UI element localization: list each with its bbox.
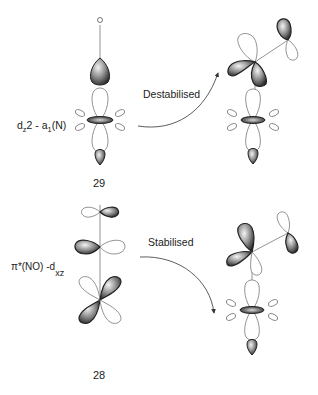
oxygen-atom-marker bbox=[98, 18, 103, 23]
o-p-lobe-empty bbox=[286, 40, 298, 60]
o-p-lobe-empty bbox=[277, 212, 289, 233]
orbital-label-pi-star-dxz: π*(NO) -dxz bbox=[11, 262, 64, 272]
dz2-torus bbox=[87, 117, 113, 124]
trans-ligand-lobe bbox=[248, 149, 258, 165]
n-pi-lobe-empty bbox=[100, 240, 125, 254]
dxz-lobe-upper-left-empty bbox=[79, 277, 100, 300]
dz2-upper-lobe bbox=[246, 89, 261, 120]
destabilised-arrow bbox=[138, 73, 218, 127]
destabilised-label: Destabilised bbox=[143, 89, 200, 100]
compound-number-29: 29 bbox=[93, 177, 105, 189]
n-p-lobe-filled-lower bbox=[252, 62, 267, 86]
side-lobe bbox=[267, 312, 278, 321]
dz2-upper-lobe bbox=[92, 88, 108, 120]
side-lobe bbox=[225, 312, 236, 321]
mo-diagram-canvas bbox=[0, 0, 318, 395]
dz2-lower-lobe bbox=[246, 120, 261, 151]
side-lobe bbox=[226, 108, 237, 117]
trans-ligand-lobe bbox=[95, 150, 105, 166]
label-part: d bbox=[17, 119, 23, 131]
side-lobe bbox=[268, 122, 279, 131]
n-p-lobe-empty bbox=[238, 34, 257, 63]
label-subscript: 1 bbox=[48, 125, 52, 134]
dxz-lobe-upper-right-filled bbox=[100, 277, 121, 300]
dxz-lobe-lower-left-filled bbox=[79, 300, 100, 323]
n-p-lobe-filled-upper bbox=[238, 224, 254, 253]
label-subscript: xz bbox=[55, 268, 64, 278]
structure-29-linear bbox=[74, 25, 125, 165]
label-part: 2 - a bbox=[27, 119, 48, 131]
structure-29-bent bbox=[226, 19, 298, 164]
orbital-label-dz2-a1: dz2 - a1(N) bbox=[17, 120, 66, 131]
stabilised-label: Stabilised bbox=[148, 237, 194, 248]
n-pi-lobe-filled bbox=[75, 240, 100, 254]
side-lobe bbox=[74, 108, 85, 117]
side-lobe bbox=[114, 108, 125, 117]
label-part: (N) bbox=[52, 119, 67, 131]
side-lobe bbox=[268, 108, 279, 117]
structure-28-bent bbox=[225, 212, 298, 355]
dz2-lower-lobe bbox=[245, 310, 260, 340]
label-part: π*(NO) -d bbox=[11, 261, 55, 272]
trans-ligand-lobe bbox=[247, 340, 257, 356]
side-lobe bbox=[114, 122, 125, 131]
dz2-torus bbox=[240, 307, 264, 314]
side-lobe bbox=[226, 122, 237, 131]
stabilised-arrow bbox=[140, 257, 214, 313]
dz2-upper-lobe bbox=[245, 280, 260, 310]
side-lobe bbox=[225, 298, 236, 307]
o-p-lobe-filled bbox=[277, 19, 291, 40]
side-lobe bbox=[74, 122, 85, 131]
dz2-lower-lobe bbox=[92, 120, 108, 152]
structure-28-linear bbox=[75, 205, 125, 323]
side-lobe bbox=[267, 298, 278, 307]
o-p-lobe-filled bbox=[286, 233, 298, 253]
dxz-lobe-lower-right-empty bbox=[100, 300, 121, 323]
bent-n-o-bond bbox=[252, 233, 288, 252]
label-subscript: z bbox=[23, 125, 27, 134]
bent-n-o-bond bbox=[255, 40, 288, 62]
n-p-lobe-filled-lower bbox=[227, 252, 252, 266]
o-pi-lobe-filled bbox=[100, 207, 119, 217]
dz2-torus bbox=[241, 117, 265, 124]
n-p-lobe-empty bbox=[251, 252, 262, 275]
compound-number-28: 28 bbox=[93, 369, 105, 381]
o-pi-lobe-empty bbox=[81, 207, 100, 217]
nitrogen-lone-pair-lobe bbox=[90, 58, 109, 85]
